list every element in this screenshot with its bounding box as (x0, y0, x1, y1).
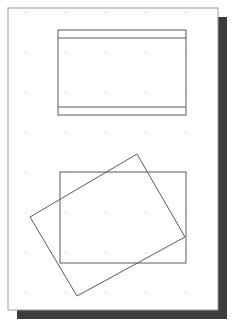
figure-canvas (0, 0, 235, 322)
drawing-surface (0, 0, 235, 322)
